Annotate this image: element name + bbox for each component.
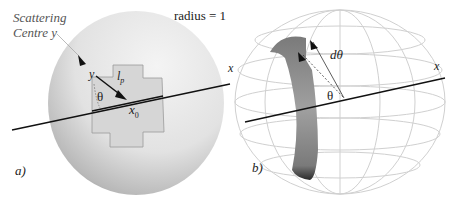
- ring-band: [270, 37, 318, 180]
- panel-a-label: a): [15, 164, 26, 177]
- figure-canvas: [0, 0, 454, 201]
- x0-label: x0: [129, 103, 139, 120]
- point-y-label: y: [89, 68, 94, 80]
- axis-x-label-a: x: [228, 62, 233, 74]
- dtheta-label: dθ: [330, 48, 343, 61]
- path-length-label: lp: [117, 70, 124, 85]
- panel-b-label: b): [252, 161, 263, 174]
- scattering-label: Scattering: [13, 11, 66, 24]
- panel-b-wireframe-sphere: [235, 10, 445, 194]
- centre-label: Centre y: [13, 26, 57, 39]
- axis-x-label-b: x: [434, 60, 439, 72]
- theta-label-a: θ: [97, 90, 103, 103]
- radius-label: radius = 1: [174, 9, 226, 22]
- theta-label-b: θ: [327, 89, 333, 102]
